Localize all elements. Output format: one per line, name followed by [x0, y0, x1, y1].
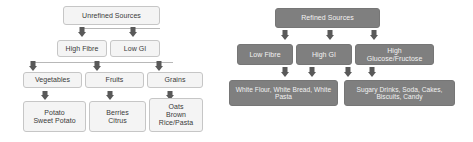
node-refined-sources[interactable]: Refined Sources — [275, 8, 380, 28]
node-berries-citrus[interactable]: Berries Citrus — [89, 101, 146, 132]
connector-root-to-level2 — [82, 28, 160, 29]
node-oats-brown-rice-pasta[interactable]: Oats Brown Rice/Pasta — [149, 98, 203, 132]
node-label: Fruits — [86, 76, 143, 84]
node-white-flour-bread-pasta[interactable]: White Flour, White Bread, White Pasta — [229, 80, 338, 106]
node-label: High GI — [297, 51, 351, 59]
node-potato-sweet-potato[interactable]: Potato Sweet Potato — [23, 101, 86, 132]
node-unrefined-sources[interactable]: Unrefined Sources — [63, 6, 160, 25]
node-high-fibre[interactable]: High Fibre — [57, 40, 107, 57]
node-vegetables[interactable]: Vegetables — [23, 72, 82, 88]
node-label: High Fibre — [58, 45, 106, 53]
node-label: Potato Sweet Potato — [24, 109, 85, 125]
node-label: Low Fibre — [238, 51, 292, 59]
diagram-refined-sources: Refined Sources Low Fibre High GI High G… — [233, 0, 473, 142]
node-low-gi[interactable]: Low GI — [110, 40, 160, 57]
node-label: Oats Brown Rice/Pasta — [150, 103, 202, 126]
connector-level2-to-level3 — [33, 62, 173, 63]
node-label: White Flour, White Bread, White Pasta — [230, 86, 337, 101]
node-label: Unrefined Sources — [64, 12, 159, 20]
diagram-unrefined-sources: Unrefined Sources High Fibre Low GI — [0, 0, 233, 142]
node-high-gi[interactable]: High GI — [296, 44, 352, 65]
node-low-fibre[interactable]: Low Fibre — [237, 44, 293, 65]
node-fruits[interactable]: Fruits — [85, 72, 144, 88]
flowchart-canvas: Unrefined Sources High Fibre Low GI — [0, 0, 473, 142]
node-label: Refined Sources — [276, 14, 379, 22]
node-sugary-drinks-soda-cakes[interactable]: Sugary Drinks, Soda, Cakes, Biscuits, Ca… — [344, 80, 455, 106]
node-label: Berries Citrus — [90, 109, 145, 125]
node-label: Low GI — [111, 45, 159, 53]
node-grains[interactable]: Grains — [147, 72, 203, 88]
node-label: Grains — [148, 76, 202, 84]
node-label: Vegetables — [24, 76, 81, 84]
node-label: High Glucose/Fructose — [356, 47, 433, 63]
node-label: Sugary Drinks, Soda, Cakes, Biscuits, Ca… — [345, 86, 454, 101]
node-high-glucose-fructose[interactable]: High Glucose/Fructose — [355, 44, 434, 65]
